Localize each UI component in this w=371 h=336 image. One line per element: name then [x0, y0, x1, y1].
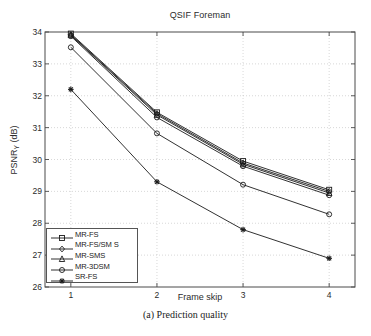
legend-marker-square-icon: [49, 229, 75, 239]
legend-label: MR-3DSM: [75, 262, 110, 271]
legend-label: MR-FS/SM S: [75, 240, 119, 249]
legend-marker-diamond-icon: [49, 240, 75, 250]
chart-legend: MR-FSMR-FS/SM SMR-SMSMR-3DSMSR-FS: [46, 228, 138, 283]
legend-item-mr-sms[interactable]: MR-SMS: [47, 250, 137, 261]
figure-panel: QSIF Foreman PSNRY (dB) 2627282930313233…: [0, 0, 371, 336]
legend-item-sr-fs[interactable]: SR-FS: [47, 271, 137, 282]
legend-label: MR-SMS: [75, 251, 105, 260]
legend-item-mr-fs-sm-s[interactable]: MR-FS/SM S: [47, 240, 137, 251]
legend-marker-circle-icon: [49, 261, 75, 271]
series-line-MR-FS: [71, 34, 329, 190]
figure-caption: (a) Prediction quality: [0, 309, 371, 320]
legend-item-mr-3dsm[interactable]: MR-3DSM: [47, 261, 137, 272]
legend-label: SR-FS: [75, 272, 97, 281]
legend-marker-star-icon: [49, 272, 75, 282]
legend-label: MR-FS: [75, 230, 99, 239]
series-line-MR-SMS: [71, 35, 329, 193]
legend-item-mr-fs[interactable]: MR-FS: [47, 229, 137, 240]
series-line-MR-FS/SM S: [71, 35, 329, 192]
legend-marker-triangle-icon: [49, 250, 75, 260]
series-line-MR-3DSM: [71, 36, 329, 195]
